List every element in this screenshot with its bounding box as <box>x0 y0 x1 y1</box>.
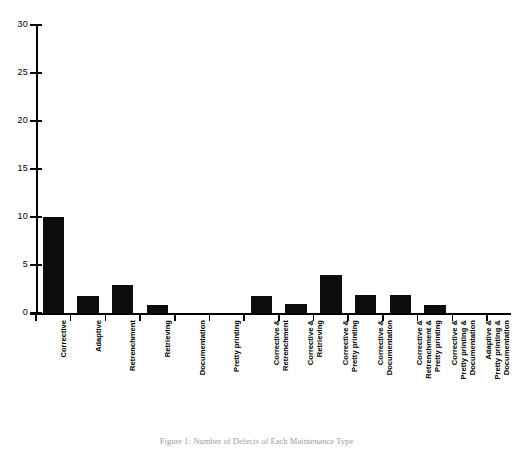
bar-column <box>320 25 342 313</box>
x-axis-category-label-line: Corrective & <box>272 320 281 435</box>
x-axis-category-label-line: Documentation <box>385 320 394 435</box>
x-axis-category-label-line: Pretty printing & <box>459 320 468 435</box>
x-axis-category-label-line: Retrenchment <box>281 320 290 435</box>
x-axis-category-label-line: Documentation <box>198 320 207 435</box>
x-axis-category-label-line: Pretty printing <box>350 320 359 435</box>
bar-column <box>251 25 273 313</box>
bar-column <box>390 25 412 313</box>
bar <box>112 285 134 313</box>
bar <box>43 217 65 313</box>
x-axis-category-label: Corrective &Pretty printing &Documentati… <box>450 320 480 435</box>
x-axis-tick <box>35 313 37 321</box>
x-axis-category-label-line: Retrieving <box>163 320 172 435</box>
x-axis-tick <box>243 313 245 321</box>
bar <box>285 304 307 313</box>
bar-column <box>147 25 169 313</box>
x-axis-category-label: Pretty printing <box>232 320 243 435</box>
x-axis-line <box>30 313 511 315</box>
bar-column <box>424 25 446 313</box>
x-axis-category-label-line: Corrective <box>59 320 68 435</box>
x-axis-category-label: Retrenchment <box>128 320 139 435</box>
bar <box>390 295 412 313</box>
x-axis-category-label-line: Corrective & <box>306 320 315 435</box>
x-axis-category-label-line: Pretty printing <box>433 320 442 435</box>
x-axis-category-label-line: Retrenchment <box>128 320 137 435</box>
x-axis-category-label: Corrective &Retrieving <box>306 320 326 435</box>
x-axis-tick <box>139 313 141 321</box>
bar <box>424 305 446 313</box>
x-axis-category-label: Corrective &Pretty printing <box>341 320 361 435</box>
bar-column <box>355 25 377 313</box>
x-axis-category-label-line: Retrenchment & <box>424 320 433 435</box>
x-axis-category-label: Corrective &Retrenchment <box>272 320 292 435</box>
x-axis-category-label-line: Pretty printing <box>232 320 241 435</box>
bar-column <box>285 25 307 313</box>
x-axis-category-label-line: Documentation <box>503 320 512 435</box>
x-axis-category-label: Documentation <box>198 320 209 435</box>
x-axis-category-label: Corrective &Retrenchment &Pretty printin… <box>415 320 445 435</box>
x-axis-tick <box>174 313 176 321</box>
x-axis-category-label-line: Corrective & <box>415 320 424 435</box>
x-axis-category-label-line: Corrective & <box>450 320 459 435</box>
x-axis-category-label: Corrective <box>59 320 70 435</box>
x-axis-category-labels: CorrectiveAdaptiveRetrenchmentRetrieving… <box>0 322 513 442</box>
x-axis-category-label: Retrieving <box>163 320 174 435</box>
bar-column <box>43 25 65 313</box>
x-axis-category-label-line: Adaptive <box>94 320 103 435</box>
bar <box>320 275 342 313</box>
x-axis-category-label-line: Documentation <box>468 320 477 435</box>
x-axis-category-label: Adaptive &Pretty printing &Documentation <box>484 320 513 435</box>
x-axis-category-label: Corrective &Documentation <box>376 320 396 435</box>
x-axis-category-label-line: Corrective & <box>376 320 385 435</box>
x-axis-category-label: Adaptive <box>94 320 105 435</box>
x-axis-category-label-line: Corrective & <box>341 320 350 435</box>
bar <box>251 296 273 313</box>
figure-caption: Figure 1: Number of Defects of Each Main… <box>0 436 513 447</box>
bar-column <box>112 25 134 313</box>
bar <box>355 295 377 313</box>
x-axis-category-label-line: Retrieving <box>316 320 325 435</box>
bar <box>77 296 99 313</box>
bars-layer <box>0 25 513 313</box>
bar-column <box>77 25 99 313</box>
bar-chart-figure: 051015202530 CorrectiveAdaptiveRetrenchm… <box>0 0 513 449</box>
bar <box>147 305 169 313</box>
